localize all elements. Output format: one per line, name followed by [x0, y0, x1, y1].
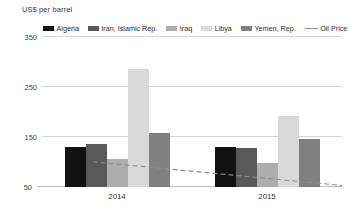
y-tick-150: 150	[24, 133, 37, 142]
y-axis-title: US$ per barrel	[22, 5, 72, 14]
chart-container: US$ per barrel Algeria Iran, Islamic Rep…	[0, 0, 349, 211]
x-tick-2015: 2015	[192, 192, 342, 201]
x-tick-2014: 2014	[42, 192, 192, 201]
y-tick-50: 50	[24, 183, 32, 192]
bar-iran-2015[interactable]	[236, 148, 257, 187]
legend-swatch-iran	[88, 26, 99, 31]
legend-swatch-algeria	[43, 26, 54, 31]
bar-iraq-2014[interactable]	[107, 159, 128, 187]
plot-area: 350 250 150 50 2014	[42, 32, 342, 187]
legend-swatch-iraq	[166, 26, 177, 31]
bar-libya-2015[interactable]	[278, 116, 299, 187]
bar-yemen-2014[interactable]	[149, 133, 170, 187]
bar-group-2015: 2015	[192, 32, 342, 187]
legend-swatch-libya	[201, 26, 212, 31]
bar-yemen-2015[interactable]	[299, 139, 320, 187]
bar-algeria-2014[interactable]	[65, 147, 86, 187]
bar-algeria-2015[interactable]	[215, 147, 236, 187]
y-tick-250: 250	[24, 83, 37, 92]
legend-line-oil-price	[305, 28, 318, 29]
legend-swatch-yemen	[241, 26, 252, 31]
bar-libya-2014[interactable]	[128, 69, 149, 187]
bar-groups: 2014 2015	[42, 32, 342, 187]
bar-iran-2014[interactable]	[86, 144, 107, 187]
bar-iraq-2015[interactable]	[257, 163, 278, 187]
bar-group-2014: 2014	[42, 32, 192, 187]
y-tick-350: 350	[24, 33, 37, 42]
